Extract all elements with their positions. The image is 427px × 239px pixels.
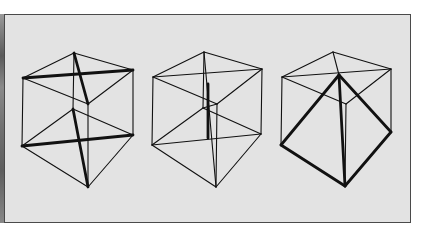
thin-edge xyxy=(346,69,391,104)
thin-edge xyxy=(333,52,339,75)
thin-edge xyxy=(203,104,217,108)
thin-edge xyxy=(261,69,262,134)
thin-edge xyxy=(333,52,391,69)
thin-edge xyxy=(217,69,262,104)
thin-edge xyxy=(73,109,133,135)
thin-edge xyxy=(203,52,204,108)
thin-edge xyxy=(23,78,88,104)
thick-edge xyxy=(339,75,345,186)
cube-pyramid xyxy=(281,52,391,186)
thin-edge xyxy=(152,145,216,187)
thin-edge xyxy=(282,69,391,77)
thin-edge xyxy=(203,108,261,134)
thin-edge xyxy=(152,77,153,145)
thin-edge xyxy=(88,70,133,104)
thin-edge xyxy=(282,52,333,77)
thin-edge xyxy=(22,78,23,146)
thin-edge xyxy=(153,69,262,77)
cubes-diagram xyxy=(0,0,427,239)
thin-edge xyxy=(216,134,261,187)
thin-edge xyxy=(216,104,217,187)
thick-edge xyxy=(345,132,391,186)
thin-edge xyxy=(152,108,203,145)
thin-edge xyxy=(153,52,204,77)
cube-two-tetrahedra xyxy=(22,53,133,187)
thin-edge xyxy=(281,77,282,145)
thin-edge xyxy=(204,52,262,69)
thin-edge xyxy=(73,53,74,109)
thick-edge xyxy=(281,145,345,186)
thin-edge xyxy=(152,134,261,145)
thick-edge xyxy=(73,109,88,187)
cube-bipyramid xyxy=(152,52,262,187)
thin-edge xyxy=(22,146,88,187)
thin-edge xyxy=(282,77,346,104)
thin-edge xyxy=(88,135,133,187)
thick-edge xyxy=(281,75,339,145)
thick-edge xyxy=(74,53,88,104)
thin-edge xyxy=(74,53,133,70)
